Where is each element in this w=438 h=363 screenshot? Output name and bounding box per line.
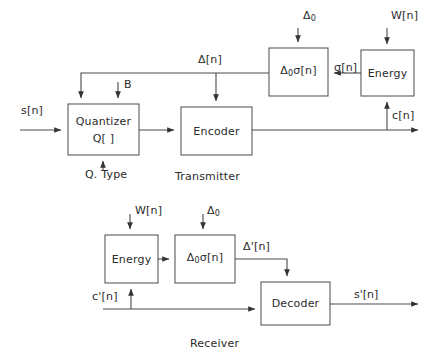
block-diagram: Quantizer Q[ ] Encoder Δ0σ[n] Energy s[n… bbox=[0, 0, 438, 363]
signal-label-rx-wn: W[n] bbox=[135, 205, 162, 217]
encoder-label: Encoder bbox=[193, 125, 239, 138]
decoder-label: Decoder bbox=[272, 297, 320, 310]
signal-label-delta-prime-n: Δ'[n] bbox=[243, 241, 270, 253]
signal-label-b: B bbox=[124, 79, 132, 91]
decoder-box-label: Decoder bbox=[261, 282, 330, 325]
quantizer-label-line1: Quantizer bbox=[76, 115, 132, 128]
rx-delta-sigma-box-label: Δ0σ[n] bbox=[175, 235, 235, 283]
rx-energy-box-label: Energy bbox=[105, 235, 158, 283]
tx-delta-sigma-box-label: Δ0σ[n] bbox=[269, 48, 328, 96]
quantizer-label-line2: Q[ ] bbox=[93, 132, 115, 145]
tx-energy-label: Energy bbox=[368, 67, 408, 80]
signal-label-s-input: s[n] bbox=[21, 105, 43, 117]
signal-label-cn: c[n] bbox=[392, 110, 414, 122]
signal-label-tx-wn: W[n] bbox=[391, 10, 418, 22]
signal-label-c-prime-n: c'[n] bbox=[92, 291, 118, 303]
transmitter-caption: Transmitter bbox=[175, 170, 240, 183]
signal-label-sigma-n: σ[n] bbox=[334, 62, 357, 74]
quantizer-box-label: Quantizer Q[ ] bbox=[68, 104, 139, 155]
wire-delta-bus bbox=[81, 73, 269, 98]
rx-delta-sigma-label: Δ0σ[n] bbox=[187, 251, 223, 267]
signal-label-s-hat-prime-n: ^ s'[n] bbox=[354, 288, 378, 301]
wire-delta-prime-bus bbox=[235, 259, 287, 276]
signal-label-tx-delta-zero: Δ0 bbox=[303, 10, 316, 25]
signal-label-rx-delta-zero: Δ0 bbox=[207, 205, 220, 220]
signal-label-q-type: Q. Type bbox=[85, 169, 127, 181]
tx-energy-box-label: Energy bbox=[361, 50, 414, 96]
tx-delta-sigma-label: Δ0σ[n] bbox=[280, 64, 316, 80]
receiver-caption: Receiver bbox=[190, 337, 239, 350]
encoder-box-label: Encoder bbox=[181, 107, 252, 155]
signal-label-delta-n: Δ[n] bbox=[198, 54, 222, 66]
rx-energy-label: Energy bbox=[112, 253, 152, 266]
